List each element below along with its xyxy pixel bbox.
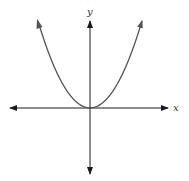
y-axis-label: y (86, 6, 93, 17)
x-axis-label: x (173, 102, 179, 113)
curve-left-arrow-icon (37, 19, 43, 29)
parabola-graph: y x (0, 0, 189, 181)
